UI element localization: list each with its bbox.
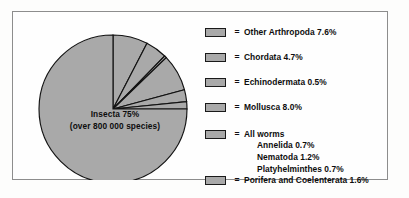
legend-label: All worms: [244, 129, 344, 140]
legend-row: =All wormsAnnelida 0.7%Nematoda 1.2%Plat…: [205, 129, 344, 176]
legend-equals-sign: =: [230, 27, 244, 38]
legend-swatch: [205, 130, 226, 139]
legend-row: =Echinodermata 0.5%: [205, 77, 327, 88]
legend-label: Echinodermata 0.5%: [244, 77, 327, 88]
legend-swatch: [205, 53, 226, 62]
legend-row: =Other Arthropoda 7.6%: [205, 27, 336, 38]
legend-row: =Chordata 4.7%: [205, 52, 303, 63]
legend-text-block: Echinodermata 0.5%: [244, 77, 327, 88]
legend-label: Porifera and Coelenterata 1.6%: [244, 175, 369, 186]
pie-chart-svg: [27, 13, 203, 180]
legend-equals-sign: =: [230, 175, 244, 186]
legend-row: =Mollusca 8.0%: [205, 102, 302, 113]
legend-label: Chordata 4.7%: [244, 52, 303, 63]
legend-label: Mollusca 8.0%: [244, 102, 302, 113]
legend-text-block: Mollusca 8.0%: [244, 102, 302, 113]
legend-equals-sign: =: [230, 102, 244, 113]
legend-text-block: Other Arthropoda 7.6%: [244, 27, 336, 38]
legend-label: Other Arthropoda 7.6%: [244, 27, 336, 38]
legend-text-block: Porifera and Coelenterata 1.6%: [244, 175, 369, 186]
legend-swatch: [205, 28, 226, 37]
chart-legend: =Other Arthropoda 7.6%=Chordata 4.7%=Ech…: [205, 18, 387, 178]
pie-chart-area: Insecta 75% (over 800 000 species): [27, 13, 203, 180]
legend-sublist: Annelida 0.7%Nematoda 1.2%Platyhelminthe…: [244, 140, 344, 175]
legend-text-block: All wormsAnnelida 0.7%Nematoda 1.2%Platy…: [244, 129, 344, 176]
legend-row: =Porifera and Coelenterata 1.6%: [205, 175, 369, 186]
legend-swatch: [205, 78, 226, 87]
legend-sublist-item: Annelida 0.7%: [257, 140, 344, 152]
legend-text-block: Chordata 4.7%: [244, 52, 303, 63]
legend-equals-sign: =: [230, 52, 244, 63]
legend-swatch: [205, 103, 226, 112]
legend-swatch: [205, 176, 226, 185]
chart-frame: Insecta 75% (over 800 000 species) =Othe…: [12, 11, 388, 180]
legend-sublist-item: Nematoda 1.2%: [257, 152, 344, 164]
legend-equals-sign: =: [230, 129, 244, 140]
pie-chart-figure: Insecta 75% (over 800 000 species) =Othe…: [0, 0, 409, 198]
legend-equals-sign: =: [230, 77, 244, 88]
